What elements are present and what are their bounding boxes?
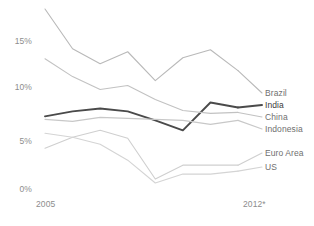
legend-connector-china [238, 112, 262, 117]
legend-connector-brazil [238, 71, 262, 93]
x-tick-label: 2012* [243, 199, 266, 209]
y-tick-label: 0% [6, 184, 32, 194]
chart-container: 15%10%5%0% 20052012* BrazilIndiaChinaInd… [0, 0, 314, 226]
x-tick-label: 2005 [36, 199, 55, 209]
legend-item-us: US [265, 162, 277, 172]
legend-item-brazil: Brazil [265, 88, 287, 98]
legend-item-indonesia: Indonesia [265, 124, 303, 134]
legend-connector-india [238, 105, 262, 107]
legend-item-india: India [265, 100, 284, 110]
legend-connector-group [238, 71, 262, 171]
legend-connector-euro-area [238, 153, 262, 165]
series-line-indonesia [45, 117, 238, 124]
legend-item-euro-area: Euro Area [265, 148, 304, 158]
series-line-india [45, 102, 238, 130]
y-tick-label: 5% [6, 136, 32, 146]
y-tick-label: 10% [6, 82, 32, 92]
y-tick-label: 15% [6, 36, 32, 46]
legend-connector-indonesia [238, 120, 262, 129]
series-line-brazil [45, 9, 238, 81]
legend-connector-us [238, 167, 262, 171]
series-group [45, 9, 238, 183]
legend-item-china: China [265, 112, 288, 122]
